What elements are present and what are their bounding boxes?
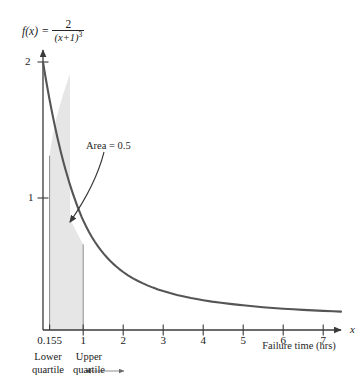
lower-quartile-label-line1: Lower [32, 350, 64, 363]
upper-quartile-label-line2: quartile [73, 363, 105, 376]
y-tick-label-2: 2 [25, 56, 31, 67]
area-annotation-label: Area = 0.5 [86, 141, 131, 152]
formula-denominator-exponent: 3 [78, 30, 82, 39]
formula-denominator: (x+1)3 [52, 31, 84, 43]
lower-quartile-label-line2: quartile [32, 363, 64, 376]
x-tick-label-5: 5 [240, 334, 246, 346]
x-tick-label-2: 2 [120, 334, 126, 346]
plot-canvas [0, 0, 364, 385]
formula-numerator: 2 [61, 18, 75, 30]
x-tick-label-0: 0.155 [37, 334, 62, 346]
x-tick-label-3: 3 [160, 334, 166, 346]
formula-fraction: 2 (x+1)3 [52, 18, 84, 43]
formula-denominator-base: (x+1) [54, 32, 78, 43]
upper-quartile-label-line1: Upper [73, 350, 105, 363]
x-tick-label-1: 1 [80, 334, 86, 346]
upper-quartile-label: Upper quartile [73, 350, 105, 376]
formula-equals: = [41, 25, 50, 37]
x-axis-caption: Failure time (hrs) [262, 341, 335, 352]
lower-quartile-label: Lower quartile [32, 350, 64, 376]
probability-density-figure: f(x) = 2 (x+1)3 2 1 0.155 1 2 3 4 5 6 7 … [0, 0, 364, 385]
formula-lhs: f(x) [22, 25, 38, 37]
density-formula: f(x) = 2 (x+1)3 [22, 18, 84, 43]
x-axis-symbol: x [350, 324, 355, 335]
y-tick-label-1: 1 [28, 192, 34, 203]
x-tick-label-4: 4 [200, 334, 206, 346]
